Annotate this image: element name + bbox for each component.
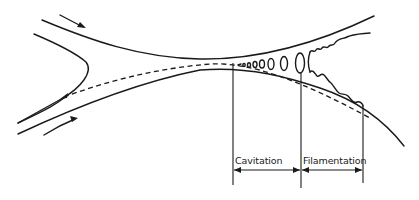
cavitation-label: Cavitation [235,155,282,166]
filamentation-left-edge [309,52,311,72]
filamentation-label: Filamentation [303,155,366,166]
flow-arrow-bottom [44,119,75,135]
diagram-canvas [0,0,419,200]
upper-inner-line [18,34,88,123]
dashed-arrowhead-icon [60,93,68,99]
cavitation-arrow-right-icon [293,167,300,173]
lower-inner-surface [18,69,404,146]
upper-surface-curve [42,16,374,59]
cavitation-arrow-left-icon [234,167,241,173]
filamentation-arrow-right-icon [355,167,362,173]
filamentation-upper-wave [310,33,370,52]
flow-arrow-top-head-icon [77,22,86,28]
dashed-centerline [64,64,370,118]
filamentation-arrow-left-icon [302,167,309,173]
